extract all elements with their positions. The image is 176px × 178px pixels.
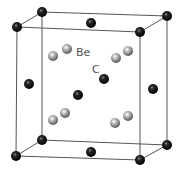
c-atom — [37, 7, 47, 17]
c-atom — [37, 135, 47, 145]
c-atom — [135, 155, 145, 165]
c-atom — [12, 22, 22, 32]
c-atom — [73, 90, 83, 100]
be-atom — [48, 51, 58, 61]
be-atom — [111, 53, 121, 63]
be-atom — [48, 115, 58, 125]
be-atom — [110, 118, 120, 128]
be-atom — [62, 44, 72, 54]
c-atom — [86, 18, 96, 28]
c-atom — [11, 151, 21, 161]
be-atom — [123, 111, 133, 121]
c-atom — [148, 84, 158, 94]
c-atom — [86, 147, 96, 157]
c-label: C — [92, 63, 100, 76]
be-atoms — [48, 44, 133, 128]
c-atom — [162, 140, 172, 150]
c-atoms-back — [24, 7, 172, 157]
be-atom — [60, 108, 70, 118]
c-atom — [135, 27, 145, 37]
c-atom — [24, 79, 34, 89]
be-atom — [123, 46, 133, 56]
c-atom — [162, 11, 172, 21]
be-label: Be — [76, 46, 91, 59]
c-atom — [99, 74, 109, 84]
unit-cell-svg: Be C — [0, 0, 176, 178]
unit-cell-diagram: Be C — [0, 0, 176, 178]
